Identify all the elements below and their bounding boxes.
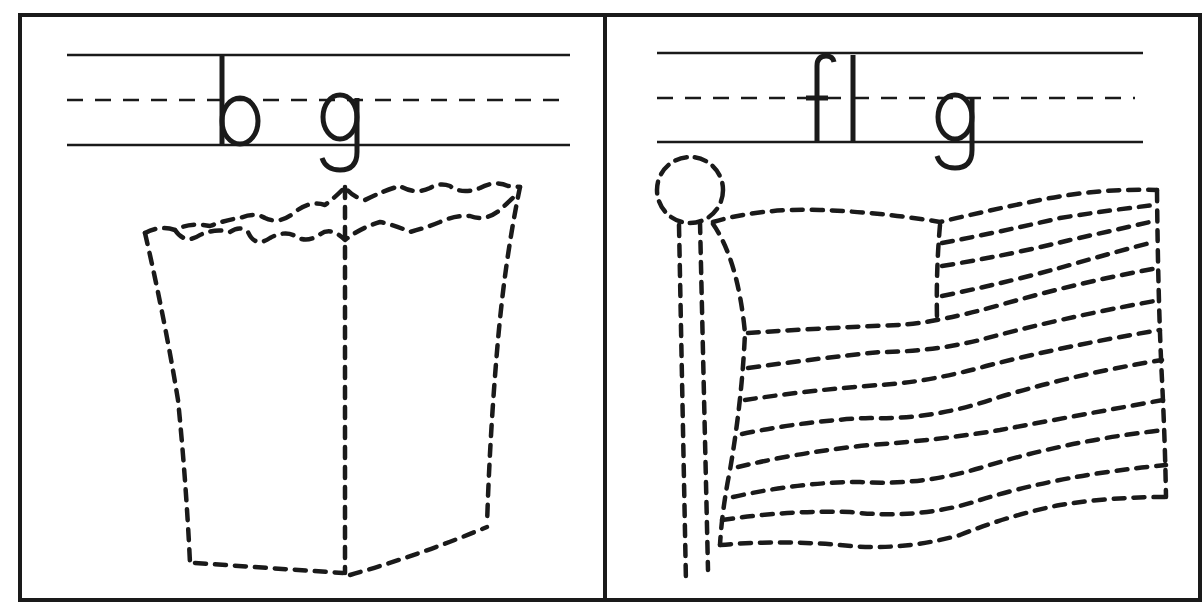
worksheet-artwork [0,0,1202,604]
bag-trace [145,183,520,575]
word-bag-letters [222,55,357,170]
guide-lines-right [657,53,1143,142]
guide-lines-left [67,55,570,145]
flag-trace [657,157,1166,583]
worksheet: b _ g fl _ g [0,0,1202,604]
word-flag-letters [806,55,972,168]
